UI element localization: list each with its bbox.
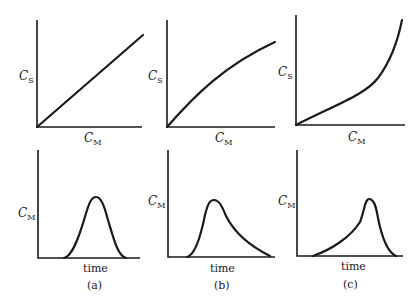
x-axis-label: CM xyxy=(215,131,232,147)
axes xyxy=(297,150,403,256)
peak-curve xyxy=(187,200,270,257)
x-axis-label: CM xyxy=(84,131,101,147)
isotherm-figure: CS CM CS CM CS CM CM time (a) CM time (b… xyxy=(0,0,417,304)
axes xyxy=(296,15,405,125)
y-axis-label: CS xyxy=(278,65,293,81)
x-axis-label: time xyxy=(341,260,366,273)
x-axis-label: CM xyxy=(348,130,365,146)
y-axis-label: CM xyxy=(278,194,295,210)
x-axis-label: time xyxy=(83,262,108,275)
isotherm-curve xyxy=(296,20,402,125)
panel-c-isotherm: CS CM xyxy=(278,15,405,146)
panel-b-isotherm: CS CM xyxy=(148,20,275,147)
peak-curve xyxy=(313,199,396,256)
y-axis-label: CM xyxy=(18,206,35,222)
panel-b-chromatogram: CM time (b) xyxy=(148,150,275,292)
isotherm-curve xyxy=(37,35,143,127)
panel-label: (b) xyxy=(214,279,230,292)
x-axis-label: time xyxy=(210,262,235,275)
panel-c-chromatogram: CM time (c) xyxy=(278,150,403,291)
y-axis-label: CS xyxy=(19,69,34,85)
y-axis-label: CM xyxy=(148,194,165,210)
peak-curve xyxy=(64,197,126,258)
panel-label: (c) xyxy=(343,278,358,291)
axes xyxy=(37,20,142,127)
y-axis-label: CS xyxy=(148,69,163,85)
axes xyxy=(168,150,275,257)
panel-label: (a) xyxy=(87,279,102,292)
panel-a-isotherm: CS CM xyxy=(19,20,143,147)
isotherm-curve xyxy=(167,42,275,127)
panel-a-chromatogram: CM time (a) xyxy=(18,150,140,292)
